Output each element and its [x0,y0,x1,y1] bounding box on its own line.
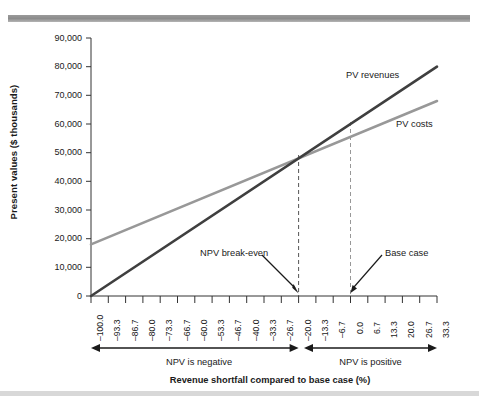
x-tick-label: –20.0 [303,319,313,341]
series-label-pv-revenues: PV revenues [346,70,399,80]
annotation-arrow-breakeven [262,255,299,294]
y-tick-label: 70,000 [24,90,82,100]
series-line-pv-costs [91,101,437,244]
x-tick-label: –66.7 [182,319,192,341]
y-tick-label: 30,000 [24,205,82,215]
x-tick-label: –73.3 [164,319,174,341]
y-tick-label: 40,000 [24,176,82,186]
y-tick-label: 50,000 [24,147,82,157]
x-tick-label: 6.7 [372,322,382,334]
y-tick-label: 90,000 [24,33,82,43]
x-tick-label: –100.0 [95,315,105,341]
x-tick-marks [91,296,437,303]
x-tick-label: 13.3 [389,321,399,338]
y-tick-label: 80,000 [24,61,82,71]
y-tick-label: 0 [24,291,82,301]
series-line-pv-revenues [91,67,437,296]
y-tick-label: 10,000 [24,262,82,272]
region-arrow-npv-positive [304,344,437,352]
region-label-npv-positive: NPV is positive [304,357,437,367]
y-tick-marks [86,38,91,296]
annotation-label-basecase: Base case [385,248,428,258]
x-tick-label: –13.3 [320,319,330,341]
x-tick-label: –40.0 [251,319,261,341]
y-tick-label: 20,000 [24,233,82,243]
x-tick-label: –46.7 [233,319,243,341]
x-axis-title: Revenue shortfall compared to base case … [60,375,479,385]
x-tick-label: –6.7 [337,321,347,338]
annotation-arrow-basecase [351,255,383,293]
x-tick-label: 0.0 [355,322,365,334]
x-tick-label: –53.3 [216,319,226,341]
x-tick-label: 26.7 [424,321,434,338]
x-tick-label: 33.3 [441,321,451,338]
series-label-pv-costs: PV costs [396,119,433,129]
x-tick-label: –80.0 [147,319,157,341]
region-arrow-npv-negative [91,344,299,352]
x-tick-label: –86.7 [130,319,140,341]
x-tick-label: –93.3 [112,319,122,341]
x-tick-label: 20.0 [406,321,416,338]
bottom-divider-rule [0,391,479,396]
figure-container: Present values ($ thousands) 0 10,000 20… [0,0,479,396]
region-label-npv-negative: NPV is negative [94,357,304,367]
x-tick-label: –26.7 [285,319,295,341]
y-tick-label: 60,000 [24,119,82,129]
x-tick-label: –33.3 [268,319,278,341]
x-tick-label: –60.0 [199,319,209,341]
annotation-label-breakeven: NPV break-even [200,248,268,258]
